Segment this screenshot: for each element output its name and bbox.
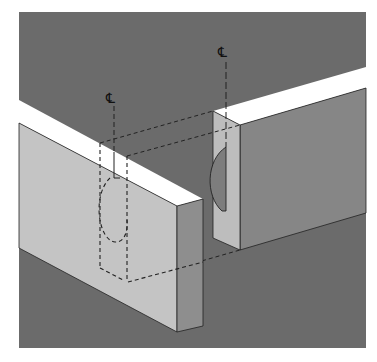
biscuit-joint-diagram: ℄ ℄ xyxy=(0,0,377,362)
centerline-left-label: ℄ xyxy=(105,90,115,106)
centerline-right-label: ℄ xyxy=(217,44,227,60)
